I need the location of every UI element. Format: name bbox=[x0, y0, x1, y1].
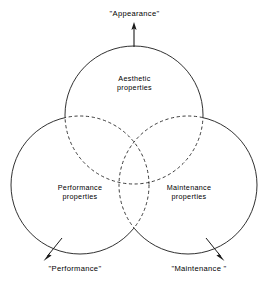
aesthetic-set-label-line2: properties bbox=[0, 83, 269, 92]
maintenance-set-label-line2: properties bbox=[109, 192, 269, 201]
appearance-connector bbox=[131, 22, 136, 47]
aesthetic-circle-outer-arc bbox=[65, 46, 203, 184]
appearance-callout-label: "Appearance" bbox=[0, 9, 269, 18]
venn-diagram-graphic bbox=[0, 0, 269, 287]
aesthetic-set-label-line1: Aesthetic bbox=[0, 74, 269, 83]
performance-callout-label: "Performance" bbox=[0, 264, 150, 273]
aesthetic-set-label: Aesthetic properties bbox=[0, 74, 269, 92]
maintenance-callout-label: "Maintenance " bbox=[129, 264, 269, 273]
aesthetic-circle-inner-arc bbox=[65, 46, 203, 184]
performance-connector bbox=[44, 238, 63, 261]
maintenance-set-label: Maintenance properties bbox=[109, 183, 269, 201]
venn-diagram-figure: Aesthetic properties Performance propert… bbox=[0, 0, 269, 287]
maintenance-set-label-line1: Maintenance bbox=[109, 183, 269, 192]
maintenance-connector bbox=[206, 238, 225, 261]
